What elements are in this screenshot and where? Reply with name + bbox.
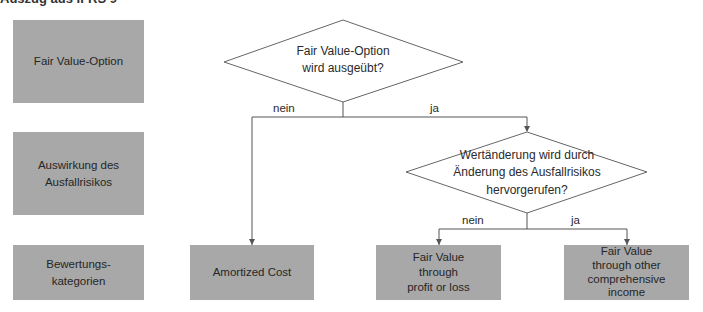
decision-text-credit-risk: Wertänderung wird durch Änderung des Aus… [437, 147, 617, 199]
branch-label-no-2: nein [462, 214, 484, 226]
branch-label-yes-2: ja [571, 214, 580, 226]
branch-label-no-1: nein [273, 102, 295, 114]
branch-label-yes-1: ja [430, 102, 439, 114]
outcome-amortized-cost: Amortized Cost [190, 245, 314, 300]
decision-text-fair-value-option: Fair Value-Option wird ausgeübt? [263, 43, 423, 78]
outcome-fvoci: Fair Value through other comprehensive i… [564, 245, 689, 300]
outcome-fvpl: Fair Value through profit or loss [376, 245, 501, 300]
arrow-head-icon [524, 126, 530, 132]
